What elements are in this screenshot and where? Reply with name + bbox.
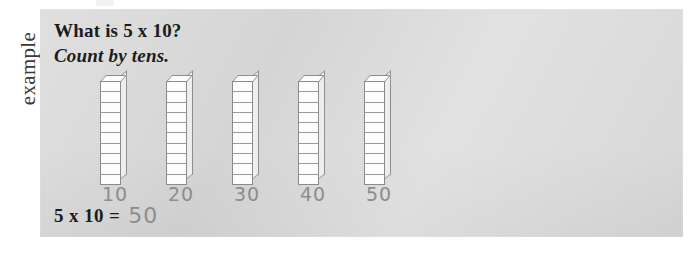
rod-unit-cell	[299, 113, 318, 123]
rod-unit-cell	[167, 133, 186, 143]
rod-count-label: 40	[292, 183, 334, 205]
rod-unit-cell	[167, 92, 186, 102]
rod-unit-cell	[233, 103, 252, 113]
rod-side-face	[385, 70, 391, 179]
rod-unit-cell	[101, 92, 120, 102]
rod-block	[100, 75, 134, 187]
rod-unit-cell	[299, 133, 318, 143]
equation-answer: 50	[128, 203, 158, 228]
rod-unit-cell	[299, 123, 318, 133]
rod-unit-cell	[365, 113, 384, 123]
rod-unit-cell	[167, 82, 186, 92]
rod-block	[232, 75, 266, 187]
base-ten-rod: 20	[166, 75, 200, 205]
base-ten-rod: 50	[364, 75, 398, 205]
example-margin-label: example	[16, 17, 41, 121]
rod-count-label: 20	[160, 183, 202, 205]
example-panel: What is 5 x 10? Count by tens. 102030405…	[40, 9, 683, 237]
rod-unit-cell	[101, 123, 120, 133]
rod-unit-cell	[167, 103, 186, 113]
answer-line: 5 x 10 = 50	[54, 202, 158, 227]
rod-unit-cell	[167, 154, 186, 164]
rod-unit-cell	[299, 82, 318, 92]
rod-unit-cell	[101, 113, 120, 123]
rod-unit-cell	[101, 133, 120, 143]
rod-side-face	[187, 70, 193, 179]
rod-front-face	[166, 81, 187, 185]
rod-unit-cell	[101, 144, 120, 154]
rod-block	[166, 75, 200, 187]
rod-unit-cell	[365, 164, 384, 174]
rod-front-face	[298, 81, 319, 185]
rod-unit-cell	[167, 123, 186, 133]
rod-unit-cell	[233, 144, 252, 154]
scan-artifact	[96, 0, 114, 6]
base-ten-rod: 40	[298, 75, 332, 205]
rod-front-face	[100, 81, 121, 185]
rod-front-face	[232, 81, 253, 185]
rod-unit-cell	[299, 144, 318, 154]
rod-unit-cell	[233, 133, 252, 143]
rod-unit-cell	[365, 92, 384, 102]
base-ten-rod: 10	[100, 75, 134, 205]
rod-unit-cell	[167, 144, 186, 154]
equation-expression: 5 x 10 =	[54, 205, 120, 227]
rod-block	[364, 75, 398, 187]
rod-unit-cell	[233, 113, 252, 123]
rod-unit-cell	[365, 133, 384, 143]
rod-unit-cell	[299, 164, 318, 174]
rod-unit-cell	[101, 82, 120, 92]
rod-count-label: 50	[358, 183, 400, 205]
rod-side-face	[121, 70, 127, 179]
rod-unit-cell	[167, 164, 186, 174]
rod-unit-cell	[101, 103, 120, 113]
rod-unit-cell	[233, 154, 252, 164]
rod-unit-cell	[365, 123, 384, 133]
base-ten-rod-group: 1020304050	[100, 75, 480, 205]
rod-unit-cell	[101, 154, 120, 164]
question-text: What is 5 x 10?	[54, 20, 182, 42]
rod-count-label: 30	[226, 183, 268, 205]
rod-unit-cell	[365, 103, 384, 113]
rod-front-face	[364, 81, 385, 185]
rod-unit-cell	[167, 113, 186, 123]
rod-block	[298, 75, 332, 187]
instruction-text: Count by tens.	[54, 45, 169, 67]
rod-side-face	[319, 70, 325, 179]
rod-side-face	[253, 70, 259, 179]
rod-unit-cell	[365, 144, 384, 154]
rod-unit-cell	[233, 164, 252, 174]
rod-unit-cell	[365, 82, 384, 92]
base-ten-rod: 30	[232, 75, 266, 205]
rod-unit-cell	[299, 92, 318, 102]
rod-unit-cell	[233, 82, 252, 92]
rod-unit-cell	[299, 154, 318, 164]
rod-unit-cell	[101, 164, 120, 174]
rod-unit-cell	[299, 103, 318, 113]
rod-unit-cell	[233, 92, 252, 102]
rod-unit-cell	[365, 154, 384, 164]
rod-unit-cell	[233, 123, 252, 133]
